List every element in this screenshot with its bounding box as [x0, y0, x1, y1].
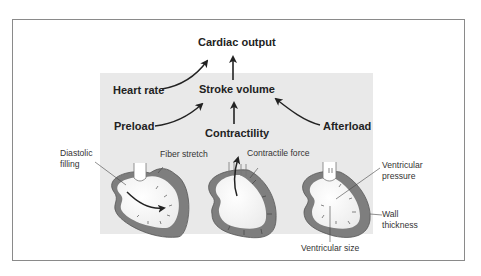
arrow-afterload-to-stroke-volume [276, 99, 320, 125]
heart-rate-label: Heart rate [113, 84, 164, 96]
preload-label: Preload [114, 120, 154, 132]
cardiac-output-label: Cardiac output [198, 36, 276, 48]
contractility-label: Contractility [205, 127, 269, 139]
fiber-stretch-label: Fiber stretch [160, 149, 208, 160]
arrow-preload-to-stroke-volume [155, 104, 202, 126]
contractile-force-label: Contractile force [247, 148, 310, 159]
ventricular-size-label: Ventricular size [301, 243, 359, 254]
heart-afterload [303, 162, 382, 242]
diastolic-filling-label: Diastolic filling [60, 148, 92, 169]
ventricular-pressure-label: Ventricular pressure [382, 160, 423, 181]
stroke-volume-label: Stroke volume [199, 83, 275, 95]
wall-thickness-label: Wall thickness [382, 209, 418, 230]
heart-diastolic [95, 162, 189, 237]
heart-contractility [209, 158, 277, 238]
afterload-label: Afterload [323, 120, 371, 132]
